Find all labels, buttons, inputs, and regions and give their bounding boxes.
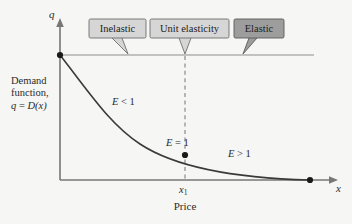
x-tick-label-x1: x1 xyxy=(179,184,187,196)
elasticity-value-unit: 1 xyxy=(184,137,189,148)
curve-point-end xyxy=(307,177,313,183)
callout-label-inelastic: Inelastic xyxy=(89,23,146,35)
elasticity-value-elastic: 1 xyxy=(246,148,251,159)
elasticity-op-unit: = xyxy=(172,137,183,148)
demand-equals-symbol: = xyxy=(16,100,27,111)
elasticity-label-unit: E = 1 xyxy=(166,137,189,149)
inelastic-callout-tail xyxy=(112,38,128,54)
x-axis-label: x xyxy=(336,182,341,195)
callout-label-unit-elasticity: Unit elasticity xyxy=(150,23,229,35)
x-axis-caption: Price xyxy=(155,200,215,213)
elasticity-label-elastic: E > 1 xyxy=(228,148,251,160)
y-axis-arrow-icon xyxy=(56,18,64,27)
elasticity-op-elastic: > xyxy=(234,148,245,159)
demand-function-line-2: function, xyxy=(11,87,49,99)
unit-callout-tail xyxy=(179,38,191,54)
curve-point-origin xyxy=(57,52,63,58)
demand-elasticity-figure: Inelastic Unit elasticity Elastic q x De… xyxy=(0,0,352,224)
elastic-callout-tail xyxy=(243,38,257,54)
demand-x-argument: (x) xyxy=(35,100,47,111)
x-tick-subscript: 1 xyxy=(184,188,188,197)
demand-d-symbol: D xyxy=(27,100,35,111)
elasticity-op-inelastic: < xyxy=(118,96,129,107)
demand-function-line-3: q = D(x) xyxy=(11,100,49,112)
elasticity-label-inelastic: E < 1 xyxy=(112,96,135,108)
callout-label-elastic: Elastic xyxy=(234,23,284,35)
elasticity-value-inelastic: 1 xyxy=(130,96,135,107)
x-tick-symbol: x xyxy=(179,184,184,195)
demand-function-label: Demand function, q = D(x) xyxy=(11,75,49,112)
demand-function-line-1: Demand xyxy=(11,75,49,87)
y-axis-label: q xyxy=(49,8,55,21)
curve-point-unit-elasticity xyxy=(182,152,188,158)
